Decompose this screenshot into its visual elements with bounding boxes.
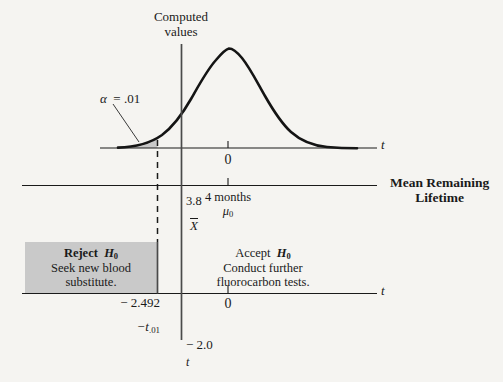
mean-lifetime-axis-title: Mean Remaining Lifetime bbox=[390, 175, 489, 205]
test-statistic-label: − 2.0 bbox=[186, 338, 213, 353]
accept-h-subscript: 0 bbox=[287, 251, 291, 261]
sample-mean-symbol: X bbox=[190, 218, 198, 234]
xbar-glyph: X bbox=[190, 218, 198, 232]
alpha-symbol: α bbox=[100, 91, 107, 106]
reject-line2: Seek new blood bbox=[51, 261, 131, 275]
t-axis-top-zero-label: 0 bbox=[225, 152, 232, 168]
sample-mean-value: 3.8 bbox=[186, 194, 202, 208]
reject-line3: substitute. bbox=[51, 275, 131, 289]
t-distribution-curve bbox=[118, 49, 357, 149]
neg-t-glyph: −t bbox=[137, 319, 149, 334]
mean-lifetime-line1: Mean Remaining bbox=[390, 175, 489, 190]
reject-h-glyph: H bbox=[104, 246, 114, 260]
accept-heading: Accept H0 bbox=[216, 246, 309, 261]
accept-h-glyph: H bbox=[277, 246, 287, 260]
t-axis-top-label: t bbox=[381, 138, 385, 153]
accept-line3: fluorocarbon tests. bbox=[216, 275, 309, 289]
reject-heading-word: Reject bbox=[64, 246, 98, 260]
alpha-leader-line bbox=[113, 104, 139, 142]
accept-line2: Conduct further bbox=[216, 261, 309, 275]
hypothesis-test-figure: Computed values α = .01 t 0 Mean Remaini… bbox=[0, 0, 503, 382]
mu-subscript: 0 bbox=[229, 209, 233, 219]
alpha-value: = .01 bbox=[110, 91, 140, 106]
t-axis-bottom-label: t bbox=[381, 284, 385, 299]
accept-region-text: Accept H0 Conduct further fluorocarbon t… bbox=[216, 246, 309, 289]
critical-value-symbol: −t.01 bbox=[137, 320, 160, 336]
alpha-label: α = .01 bbox=[100, 92, 140, 107]
hypothesized-value-label: 4 months bbox=[205, 190, 251, 204]
computed-values-label: Computed values bbox=[154, 10, 208, 39]
accept-heading-word: Accept bbox=[235, 246, 270, 260]
critical-value-label: − 2.492 bbox=[120, 296, 160, 311]
reject-region-text: Reject H0 Seek new blood substitute. bbox=[51, 246, 131, 289]
mu-zero-symbol: μ0 bbox=[223, 204, 234, 219]
reject-heading: Reject H0 bbox=[51, 246, 131, 261]
computed-values-line2: values bbox=[154, 25, 208, 40]
t-axis-bottom-zero-label: 0 bbox=[225, 296, 232, 312]
test-statistic-axis-symbol: t bbox=[186, 356, 189, 369]
critical-subscript: .01 bbox=[149, 325, 160, 335]
mean-lifetime-line2: Lifetime bbox=[390, 190, 489, 205]
computed-values-line1: Computed bbox=[154, 10, 208, 25]
reject-h-subscript: 0 bbox=[114, 251, 118, 261]
